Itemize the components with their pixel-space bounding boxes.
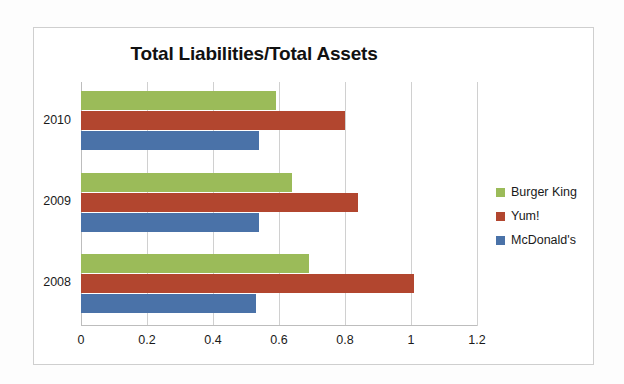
legend-label-mcdonalds: McDonald's xyxy=(511,233,576,247)
x-tick-label: 0 xyxy=(78,333,85,347)
bar-row xyxy=(81,131,477,150)
bar-row xyxy=(81,91,477,110)
chart-legend: Burger King Yum! McDonald's xyxy=(496,180,591,252)
gridline xyxy=(477,82,478,326)
legend-swatch-mcdonalds xyxy=(496,236,505,245)
bar-group: 2009 xyxy=(81,173,477,232)
bar-row xyxy=(81,254,477,273)
x-tick-label: 0.8 xyxy=(336,333,353,347)
bar-group: 2010 xyxy=(81,91,477,150)
bar-row xyxy=(81,213,477,232)
bar-mcdonald-s xyxy=(81,131,259,150)
legend-swatch-burger-king xyxy=(496,188,505,197)
bar-yum xyxy=(81,111,345,130)
x-tick-label: 0.6 xyxy=(270,333,287,347)
legend-label-burger-king: Burger King xyxy=(511,185,577,199)
chart-screenshot: Total Liabilities/Total Assets 201020092… xyxy=(0,0,624,384)
bar-row xyxy=(81,193,477,212)
legend-swatch-yum xyxy=(496,212,505,221)
bar-mcdonald-s xyxy=(81,213,259,232)
bar-burger-king xyxy=(81,254,309,273)
x-axis-line xyxy=(81,325,477,326)
bar-burger-king xyxy=(81,91,276,110)
plot-area: 201020092008 00.20.40.60.811.2 xyxy=(81,82,477,326)
category-label: 2008 xyxy=(11,275,71,289)
x-tick-label: 1.2 xyxy=(468,333,485,347)
x-tick-label: 0.2 xyxy=(138,333,155,347)
legend-item: Burger King xyxy=(496,180,591,204)
bar-row xyxy=(81,111,477,130)
bar-row xyxy=(81,274,477,293)
legend-item: Yum! xyxy=(496,204,591,228)
category-label: 2010 xyxy=(11,113,71,127)
bar-mcdonald-s xyxy=(81,294,256,313)
category-label: 2009 xyxy=(11,194,71,208)
x-tick-label: 1 xyxy=(408,333,415,347)
legend-item: McDonald's xyxy=(496,228,591,252)
chart-title: Total Liabilities/Total Assets xyxy=(34,43,474,65)
bar-yum xyxy=(81,274,414,293)
bar-group: 2008 xyxy=(81,254,477,313)
bar-row xyxy=(81,173,477,192)
legend-label-yum: Yum! xyxy=(511,209,540,223)
bar-yum xyxy=(81,193,358,212)
bar-burger-king xyxy=(81,173,292,192)
x-tick-label: 0.4 xyxy=(204,333,221,347)
bar-row xyxy=(81,294,477,313)
